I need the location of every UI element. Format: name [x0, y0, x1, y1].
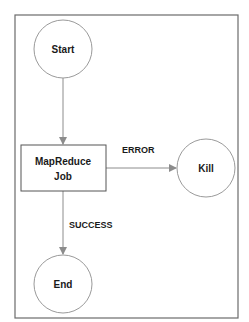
node-mapreduce-job: MapReduce Job [21, 145, 106, 191]
edge-label-error: ERROR [122, 145, 155, 155]
node-kill: Kill [177, 139, 235, 197]
node-start: Start [34, 20, 92, 78]
node-job-label-line2: Job [54, 171, 72, 182]
node-end-label: End [54, 279, 73, 290]
edge-label-success: SUCCESS [69, 220, 113, 230]
node-start-label: Start [52, 44, 75, 55]
node-job-label-line1: MapReduce [35, 156, 92, 167]
node-end: End [34, 255, 92, 313]
node-kill-label: Kill [198, 163, 214, 174]
workflow-diagram: ERROR SUCCESS Start MapReduce Job Kill E… [0, 0, 249, 322]
